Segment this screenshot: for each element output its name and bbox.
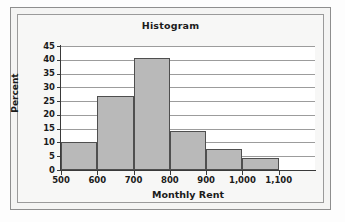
- x-tick-label: 1,000: [222, 175, 262, 185]
- x-axis-line: [60, 170, 316, 171]
- y-tick-label: 25: [37, 96, 55, 106]
- y-axis-title: Percent: [10, 58, 20, 128]
- gridline-y-40: [61, 60, 315, 61]
- y-tick-25: [57, 101, 61, 102]
- y-tick-label: 0: [37, 165, 55, 175]
- histogram-bar: [97, 96, 133, 170]
- y-tick-10: [57, 142, 61, 143]
- plot-clip: [61, 46, 315, 170]
- x-tick-label: 600: [77, 175, 117, 185]
- y-tick-label: 5: [37, 151, 55, 161]
- histogram-bar: [61, 142, 97, 170]
- x-tick-label: 700: [114, 175, 154, 185]
- y-tick-label: 40: [37, 54, 55, 64]
- y-tick-45: [57, 46, 61, 47]
- gridline-y-45: [61, 46, 315, 47]
- y-axis-tick-labels: 051015202530354045: [33, 0, 55, 222]
- histogram-bar: [170, 131, 206, 170]
- y-tick-label: 10: [37, 137, 55, 147]
- histogram-bar: [242, 158, 278, 170]
- x-tick-label: 1,100: [259, 175, 299, 185]
- y-tick-35: [57, 74, 61, 75]
- x-axis-title: Monthly Rent: [61, 189, 315, 200]
- y-tick-5: [57, 156, 61, 157]
- gridline-y-35: [61, 74, 315, 75]
- x-tick-label: 800: [150, 175, 190, 185]
- y-tick-30: [57, 87, 61, 88]
- gridline-y-30: [61, 87, 315, 88]
- y-tick-label: 20: [37, 109, 55, 119]
- histogram-bar: [134, 58, 170, 170]
- chart-title: Histogram: [17, 20, 324, 31]
- y-tick-15: [57, 129, 61, 130]
- x-tick-label: 900: [186, 175, 226, 185]
- y-tick-label: 45: [37, 41, 55, 51]
- y-tick-label: 15: [37, 123, 55, 133]
- x-tick-label: 500: [41, 175, 81, 185]
- y-tick-label: 30: [37, 82, 55, 92]
- y-axis-line: [60, 45, 61, 171]
- scanned-page-background: Histogram 051015202530354045 50060070080…: [0, 0, 345, 222]
- y-tick-20: [57, 115, 61, 116]
- plot-area: [61, 46, 315, 170]
- histogram-bar: [206, 149, 242, 170]
- y-tick-40: [57, 60, 61, 61]
- y-tick-label: 35: [37, 68, 55, 78]
